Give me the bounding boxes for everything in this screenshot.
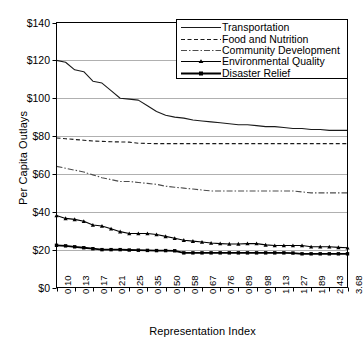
series-4: [54, 213, 349, 249]
data-marker: [237, 251, 240, 254]
x-tick-label: 0.10: [62, 275, 73, 294]
y-tick-label: $0: [6, 282, 50, 294]
y-tick-label: $140: [6, 17, 50, 29]
data-marker: [200, 251, 203, 254]
x-tick-label: 0.17: [98, 275, 109, 294]
data-marker: [155, 249, 158, 252]
legend-label: Food and Nutrition: [222, 34, 308, 45]
y-tick-label: $20: [6, 244, 50, 256]
x-tick-label: 2.43: [334, 275, 345, 294]
x-tick-label: 0.21: [116, 275, 127, 294]
x-tick-label: 1.89: [316, 275, 327, 294]
series-3: [57, 166, 348, 193]
x-tick-label: 0.25: [134, 275, 145, 294]
legend-marker: [199, 71, 203, 75]
data-marker: [291, 251, 294, 254]
data-marker: [109, 248, 112, 251]
data-marker: [82, 246, 85, 249]
x-tick-label: 0.35: [152, 275, 163, 294]
legend-swatch: [180, 22, 222, 33]
data-marker: [173, 249, 176, 252]
data-marker: [246, 251, 249, 254]
data-marker: [164, 249, 167, 252]
data-marker: [182, 251, 185, 254]
data-marker: [191, 251, 194, 254]
x-tick-label: 1.27: [298, 275, 309, 294]
data-marker: [209, 251, 212, 254]
legend-swatch: [180, 56, 222, 67]
legend-label: Community Development: [222, 45, 340, 56]
x-tick-label: 0.67: [207, 275, 218, 294]
y-tick-label: $120: [6, 54, 50, 66]
y-tick-marks: [53, 24, 57, 289]
data-marker: [328, 252, 331, 255]
x-tick-label: 0.50: [171, 275, 182, 294]
data-marker: [91, 247, 94, 250]
legend-label: Environmental Quality: [222, 56, 325, 67]
data-marker: [255, 251, 258, 254]
x-tick-label: 0.76: [225, 275, 236, 294]
data-marker: [64, 244, 67, 247]
legend-swatch: [180, 68, 222, 79]
legend-item-1: Transportation: [180, 22, 347, 33]
data-marker: [218, 251, 221, 254]
data-marker: [128, 248, 131, 251]
legend-swatch: [180, 45, 222, 56]
series-line: [57, 166, 348, 193]
data-marker: [118, 248, 121, 251]
x-tick-label: 3.68: [353, 275, 364, 294]
series-line: [57, 138, 348, 144]
data-marker: [100, 248, 103, 251]
data-marker: [73, 245, 76, 248]
chart-legend: TransportationFood and NutritionCommunit…: [176, 19, 348, 79]
series-layer: [54, 60, 349, 255]
data-marker: [273, 251, 276, 254]
x-tick-label: 0.58: [189, 275, 200, 294]
legend-swatch: [180, 34, 222, 45]
data-marker: [309, 252, 312, 255]
legend-item-5: Disaster Relief: [180, 68, 347, 79]
y-axis-title: Per Capita Outlays: [17, 88, 29, 228]
data-marker: [337, 252, 340, 255]
x-tick-label: 0.13: [80, 275, 91, 294]
x-axis-title: Representation Index: [55, 325, 350, 337]
data-marker: [282, 251, 285, 254]
legend-label: Disaster Relief: [222, 68, 290, 79]
data-marker: [264, 251, 267, 254]
legend-item-4: Environmental Quality: [180, 56, 347, 67]
data-marker: [319, 252, 322, 255]
legend-label: Transportation: [222, 22, 289, 33]
x-tick-label: 1.13: [280, 275, 291, 294]
data-marker: [228, 251, 231, 254]
series-2: [57, 138, 348, 144]
x-tick-label: 0.98: [262, 275, 273, 294]
data-marker: [146, 249, 149, 252]
data-marker: [300, 252, 303, 255]
x-tick-label: 0.89: [243, 275, 254, 294]
gridlines: [57, 61, 348, 251]
data-marker: [137, 249, 140, 252]
